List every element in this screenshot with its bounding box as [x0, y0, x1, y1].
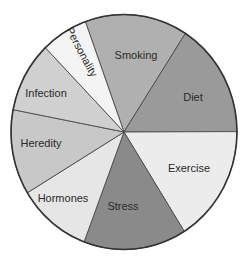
pie-chart: SmokingDietExerciseStressHormonesHeredit…	[0, 0, 248, 260]
slice-label-infection: Infection	[25, 87, 67, 99]
slice-label-heredity: Heredity	[21, 137, 62, 149]
slice-label-smoking: Smoking	[115, 49, 158, 61]
pie-chart-svg: SmokingDietExerciseStressHormonesHeredit…	[0, 0, 248, 260]
slice-label-stress: Stress	[107, 200, 139, 212]
slice-label-diet: Diet	[183, 91, 203, 103]
slice-label-exercise: Exercise	[168, 162, 210, 174]
slice-label-hormones: Hormones	[38, 192, 89, 204]
